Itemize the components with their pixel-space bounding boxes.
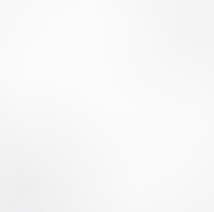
y-tick-label-2: 2 — [97, 101, 102, 110]
y-tick-label-3: 3 — [97, 87, 102, 96]
y-tick-label--2: -2 — [96, 157, 104, 166]
x-tick-label-1: 1 — [120, 139, 125, 148]
y-tick-label-5: 5 — [97, 60, 102, 69]
x-tick-label--3: -3 — [48, 139, 56, 148]
coordinate-plane-svg: -5 -4 -3 -2 -1 1 2 3 4 5 6 5 4 3 2 1 -1 … — [0, 0, 214, 212]
x-tick-label-3: 3 — [148, 139, 153, 148]
x-tick-label--4: -4 — [35, 139, 43, 148]
y-tick-label-1: 1 — [97, 115, 102, 124]
x-tick-label--5: -5 — [21, 139, 29, 148]
graph-figure: -5 -4 -3 -2 -1 1 2 3 4 5 6 5 4 3 2 1 -1 … — [0, 0, 214, 212]
y-tick-label--1: -1 — [96, 143, 104, 152]
y-tick-label--3: -3 — [96, 171, 104, 180]
y-tick-label--4: -4 — [96, 185, 104, 194]
x-tick-label-5: 5 — [175, 139, 180, 148]
x-tick-label-2: 2 — [134, 139, 139, 148]
x-tick-label--2: -2 — [62, 139, 70, 148]
y-tick-label-4: 4 — [97, 73, 102, 82]
x-tick-label--1: -1 — [76, 139, 84, 148]
x-axis-label: x — [202, 128, 207, 138]
y-tick-label-6: 6 — [97, 46, 102, 55]
x-tick-label-4: 4 — [162, 139, 167, 148]
y-axis-label: y — [105, 4, 110, 14]
